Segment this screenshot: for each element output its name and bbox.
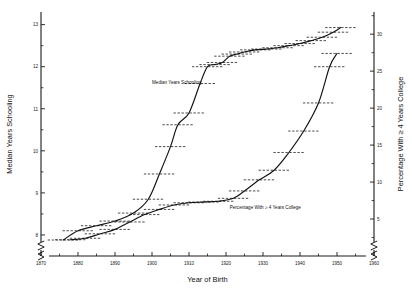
line-chart-canvas: 8910111213510152025301870188018901900191… — [0, 0, 414, 290]
series-annotation-median-years-schooling: Median Years Schooling — [152, 80, 202, 85]
x-axis-tick-label: 1900 — [147, 261, 158, 266]
y-axis-left-tick-label: 10 — [33, 149, 39, 154]
y-axis-left-tick-label: 13 — [33, 22, 39, 27]
x-axis-tick-label: 1870 — [36, 261, 47, 266]
y-axis-right-tick-label: 30 — [377, 32, 383, 37]
y-axis-right-tick-label: 15 — [377, 143, 383, 148]
x-axis-tick-label: 1920 — [221, 261, 232, 266]
series-line-percentage-college — [71, 53, 337, 239]
y-axis-right-tick-label: 25 — [377, 69, 383, 74]
y-axis-left-tick-label: 12 — [33, 64, 39, 69]
x-axis-tick-label: 1910 — [184, 261, 195, 266]
y-axis-left-tick-label: 8 — [35, 233, 38, 238]
y-axis-right-tick-label: 10 — [377, 180, 383, 185]
x-axis-title: Year of Birth — [187, 275, 227, 284]
x-axis-tick-label: 1890 — [110, 261, 121, 266]
y-axis-left-tick-label: 11 — [33, 107, 38, 112]
y-axis-right-tick-label: 20 — [377, 106, 383, 111]
series-annotation-percentage-college: Percentage With ≥ 4 Years College — [230, 205, 302, 210]
y-axis-right-tick-label: 5 — [377, 217, 380, 222]
x-axis-tick-label: 1930 — [258, 261, 269, 266]
x-axis-tick-label: 1880 — [73, 261, 84, 266]
chart-figure: 8910111213510152025301870188018901900191… — [0, 0, 414, 290]
axis-break-vertical — [38, 241, 44, 250]
y-axis-left-title: Median Years Schooling — [5, 94, 14, 173]
axis-break-vertical — [371, 241, 377, 250]
x-axis-tick-label: 1940 — [295, 261, 306, 266]
y-axis-right-title: Percentage With ≥ 4 Years College — [396, 77, 405, 192]
y-axis-left-tick-label: 9 — [35, 191, 38, 196]
x-axis-tick-label: 1960 — [369, 261, 380, 266]
x-axis-tick-label: 1950 — [332, 261, 343, 266]
